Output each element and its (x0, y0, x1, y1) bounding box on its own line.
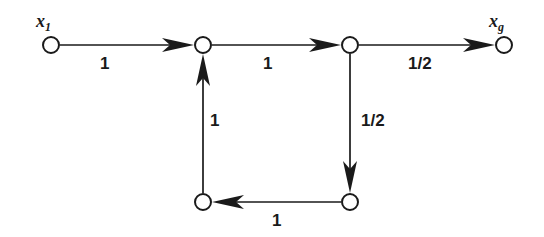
edge-n2-to-n3 (212, 38, 341, 52)
goal-node-label-subscript: g (498, 20, 504, 34)
graph-canvas (0, 0, 544, 237)
edge-weight-x1-to-n2: 1 (100, 55, 109, 72)
goal-node-label: xg (489, 12, 504, 30)
edge-weight-n3-to-xg: 1/2 (408, 55, 432, 72)
edge-n3-to-n6 (343, 54, 357, 193)
edge-n6-to-n5 (212, 195, 341, 209)
edge-x1-to-n2 (60, 38, 194, 52)
edge-weight-n6-to-n5: 1 (272, 212, 281, 229)
start-node-label: x1 (36, 12, 51, 30)
edge-weight-n5-to-n2: 1 (210, 112, 219, 129)
edge-weight-n3-to-n6: 1/2 (361, 112, 385, 129)
graph-diagram: x1 xg 1 1 1/2 1/2 1 1 (0, 0, 544, 237)
goal-node-label-base: x (489, 11, 498, 31)
junction-node-bottom-right[interactable] (342, 194, 358, 210)
edge-weight-n2-to-n3: 1 (263, 55, 272, 72)
start-node-label-base: x (36, 11, 45, 31)
junction-node-top-left[interactable] (195, 37, 211, 53)
start-node[interactable] (43, 37, 59, 53)
junction-node-bottom-left[interactable] (195, 194, 211, 210)
start-node-label-subscript: 1 (45, 20, 51, 34)
goal-node[interactable] (496, 37, 512, 53)
junction-node-top-right[interactable] (342, 37, 358, 53)
edge-n5-to-n2 (196, 54, 210, 193)
edge-n3-to-xg (359, 38, 495, 52)
